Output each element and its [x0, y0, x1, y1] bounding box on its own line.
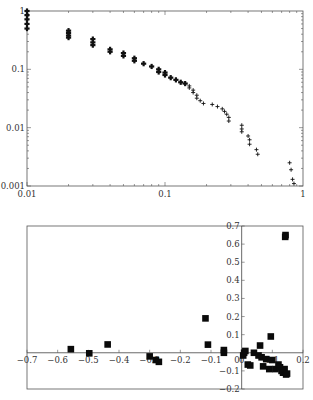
y-tick-label: 0.001: [1, 181, 25, 191]
data-point: [292, 182, 296, 186]
data-point: [168, 75, 173, 80]
data-point: [227, 115, 231, 119]
y-tick-label: 0.2: [226, 312, 240, 322]
data-point: [247, 362, 254, 369]
data-point: [248, 138, 252, 142]
data-point: [221, 347, 228, 354]
data-point: [225, 112, 229, 116]
data-point: [282, 232, 289, 239]
data-point: [256, 152, 260, 156]
data-point: [227, 119, 231, 123]
y-tick-label: 0.7: [226, 221, 240, 231]
data-point: [223, 109, 227, 113]
data-point: [202, 315, 209, 322]
data-point: [24, 26, 29, 31]
x-tick-label: −0.6: [47, 355, 68, 365]
y-tick-label: 0.6: [226, 239, 240, 249]
chart-figure: 0.010.110.0010.010.11 −0.7−0.6−0.5−0.4−0…: [0, 0, 313, 400]
data-point: [291, 177, 295, 181]
data-point: [104, 341, 111, 348]
y-tick-label: 0.4: [226, 275, 240, 285]
data-point: [289, 168, 293, 172]
data-point: [220, 107, 224, 111]
x-tick-label: −0.4: [109, 355, 130, 365]
data-point: [183, 81, 188, 86]
data-point: [191, 91, 195, 95]
data-point: [201, 101, 205, 105]
data-point: [24, 21, 29, 26]
x-tick-label: −0.2: [170, 355, 191, 365]
x-tick-label: 0.1: [158, 189, 172, 199]
data-point: [215, 105, 219, 109]
x-tick-label: 1: [300, 189, 305, 199]
data-point: [240, 130, 244, 134]
data-point: [240, 123, 244, 127]
data-point: [288, 161, 292, 165]
data-point: [195, 96, 199, 100]
x-tick-label: 0.2: [296, 355, 310, 365]
data-point: [268, 333, 275, 340]
data-point: [86, 350, 93, 357]
y-tick-label: −0.1: [219, 366, 240, 376]
x-tick-label: −0.7: [17, 355, 38, 365]
top-loglog-chart: 0.010.110.0010.010.11: [1, 6, 306, 199]
data-point: [141, 61, 146, 66]
bottom-scatter-chart: −0.7−0.6−0.5−0.4−0.3−0.2−0.100.10.2−0.2−…: [17, 221, 310, 394]
y-tick-label: 0.01: [6, 123, 25, 133]
data-point: [178, 80, 183, 85]
y-tick-label: 0.1: [11, 64, 25, 74]
data-point: [146, 353, 153, 360]
y-tick-label: 0.5: [226, 257, 240, 267]
data-point: [173, 77, 178, 82]
data-point: [246, 134, 250, 138]
data-point: [198, 99, 202, 103]
data-point: [254, 148, 258, 152]
data-point: [187, 86, 191, 90]
data-point: [284, 370, 291, 377]
origin-label: 0: [234, 355, 239, 365]
data-point: [248, 142, 252, 146]
y-tick-label: −0.2: [219, 384, 240, 394]
data-point: [242, 348, 249, 355]
y-tick-label: 0.1: [226, 330, 240, 340]
data-point: [266, 366, 273, 373]
data-point: [156, 359, 163, 366]
data-point: [205, 341, 212, 348]
data-point: [260, 363, 267, 370]
data-point: [210, 102, 214, 106]
data-point: [269, 357, 276, 364]
data-point: [24, 17, 29, 22]
data-point: [149, 64, 154, 69]
data-point: [257, 342, 264, 349]
y-tick-label: 0.3: [226, 293, 240, 303]
data-point: [263, 356, 270, 363]
x-tick-label: −0.1: [201, 355, 222, 365]
y-tick-label: 1: [20, 6, 25, 16]
data-point: [68, 346, 75, 353]
